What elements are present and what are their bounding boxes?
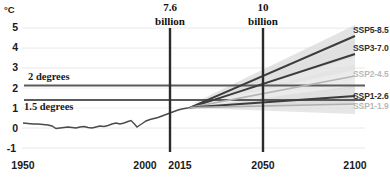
marker-10-value: 10 <box>239 2 287 14</box>
marker-7-6-value: 7.6 <box>146 2 194 14</box>
y-tick-3: 3 <box>2 62 18 73</box>
marker-7-6-billion: 7.6 billion <box>146 2 194 27</box>
y-tick-5: 5 <box>2 22 18 33</box>
legend-item-ssp3-7-0: SSP3-7.0 <box>353 44 389 53</box>
threshold-label-1-5-degrees: 1.5 degrees <box>24 102 73 113</box>
x-tick-2050: 2050 <box>243 160 283 171</box>
y-tick-1: 1 <box>2 103 18 114</box>
x-tick-2015: 2015 <box>160 160 200 171</box>
marker-7-6-unit: billion <box>146 16 194 28</box>
y-tick-2: 2 <box>2 83 18 94</box>
marker-10-unit: billion <box>239 16 287 28</box>
threshold-label-2-degrees: 2 degrees <box>28 72 70 83</box>
legend-item-ssp1-1-9: SSP1-1.9 <box>353 102 389 111</box>
x-tick-1950: 1950 <box>3 160 43 171</box>
legend-item-ssp1-2-6: SSP1-2.6 <box>353 92 389 101</box>
legend-item-ssp5-8-5: SSP5-8.5 <box>353 26 389 35</box>
chart-canvas <box>0 0 390 179</box>
marker-10-billion: 10 billion <box>239 2 287 27</box>
y-tick-4: 4 <box>2 42 18 53</box>
x-tick-2100: 2100 <box>335 160 375 171</box>
y-tick-neg1: -1 <box>0 143 16 154</box>
climate-projection-chart: °C 5 4 3 2 1 0 -1 1950 2000 2015 2050 21… <box>0 0 390 179</box>
x-tick-2000: 2000 <box>125 160 165 171</box>
y-axis-unit: °C <box>4 5 15 15</box>
y-tick-0: 0 <box>2 123 18 134</box>
legend-item-ssp2-4-5: SSP2-4.5 <box>353 70 389 79</box>
